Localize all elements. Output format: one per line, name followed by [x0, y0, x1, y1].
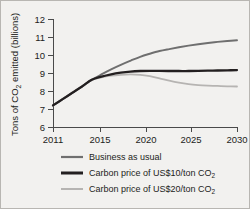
legend-label-carbon-price-20: Carbon price of US$20/ton CO2 — [89, 184, 216, 195]
legend-item-business-as-usual: Business as usual — [61, 152, 162, 162]
x-tick-label-2011: 2011 — [43, 134, 63, 145]
legend-label-carbon-price-10: Carbon price of US$10/ton CO2 — [89, 168, 216, 179]
y-axis-title: Tons of CO2 emitted (billions) — [9, 13, 22, 136]
x-tick-label-2015: 2015 — [89, 134, 110, 145]
y-tick-label-11: 11 — [35, 32, 45, 43]
emissions-line-chart: Tons of CO2 emitted (billions) 12 11 10 … — [1, 1, 250, 209]
x-tick-label-2030: 2030 — [226, 134, 247, 145]
x-tick-label-2025: 2025 — [180, 134, 201, 145]
y-tick-label-8: 8 — [40, 86, 45, 97]
chart-legend: Business as usual Carbon price of US$10/… — [61, 152, 216, 195]
chart-figure: Tons of CO2 emitted (billions) 12 11 10 … — [0, 0, 250, 209]
y-tick-label-7: 7 — [40, 104, 45, 115]
series-line-carbon-price-20 — [53, 74, 237, 105]
y-tick-label-6: 6 — [40, 122, 45, 133]
y-axis-ticks: 12 11 10 9 8 7 6 — [34, 14, 53, 133]
y-axis-title-tail: emitted (billions) — [9, 13, 20, 85]
y-axis-title-main: Tons of CO — [9, 88, 20, 136]
x-axis-ticks: 2011 2015 2020 2025 2030 — [43, 127, 248, 145]
x-tick-label-2020: 2020 — [135, 134, 156, 145]
series-lines — [53, 40, 237, 105]
y-tick-label-10: 10 — [34, 50, 45, 61]
y-tick-label-12: 12 — [34, 14, 45, 25]
series-line-business-as-usual — [53, 40, 237, 105]
y-tick-label-9: 9 — [40, 68, 45, 79]
svg-text:Tons of CO2 emitted (billions): Tons of CO2 emitted (billions) — [9, 13, 22, 136]
legend-label-business-as-usual: Business as usual — [89, 152, 162, 162]
legend-item-carbon-price-20: Carbon price of US$20/ton CO2 — [61, 184, 216, 195]
legend-item-carbon-price-10: Carbon price of US$10/ton CO2 — [61, 168, 216, 179]
